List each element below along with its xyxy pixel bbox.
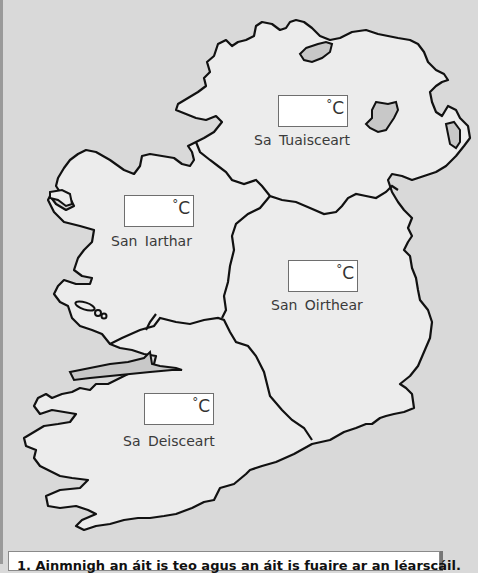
region-label-west: San Iarthar (111, 233, 192, 249)
region-label-south: Sa Deisceart (123, 433, 215, 449)
aran-island-3 (102, 314, 107, 319)
temp-input-east[interactable]: °C (288, 260, 358, 292)
celsius-unit: °C (336, 263, 353, 283)
celsius-unit: °C (172, 198, 189, 218)
question-text: 1. Ainmnigh an áit is teo agus an áit is… (17, 558, 461, 573)
region-label-north: Sa Tuaisceart (254, 132, 350, 148)
celsius-unit: °C (192, 396, 209, 416)
region-label-east: San Oirthear (271, 297, 363, 313)
ireland-outline (24, 20, 470, 530)
question-box: 1. Ainmnigh an áit is teo agus an áit is… (8, 551, 440, 571)
temp-input-west[interactable]: °C (124, 195, 194, 227)
aran-island-2 (95, 310, 101, 316)
celsius-unit: °C (326, 98, 343, 118)
temp-input-south[interactable]: °C (144, 393, 214, 425)
temp-input-north[interactable]: °C (278, 95, 348, 127)
